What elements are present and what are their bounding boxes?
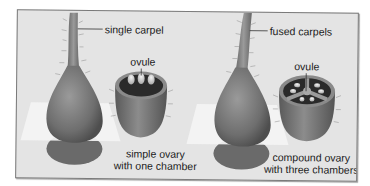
simple-ovary-caption-line1: simple ovary	[100, 147, 210, 160]
fused-carpels-label: fused carpels	[270, 25, 333, 38]
diagram-panel: single carpel ovule fused carpels ovule …	[15, 9, 359, 182]
right-ovule-label: ovule	[294, 60, 319, 72]
compound-ovary-caption: compound ovary with three chambers	[256, 151, 359, 176]
simple-ovary-caption: simple ovary with one chamber	[100, 147, 210, 172]
compound-ovary-caption-line2: with three chambers	[256, 163, 359, 176]
single-carpel-drawing	[20, 12, 122, 165]
simple-ovary-caption-line2: with one chamber	[100, 159, 210, 172]
left-ovule-label: ovule	[130, 55, 155, 67]
single-carpel-label: single carpel	[105, 23, 164, 36]
simple-ovary-cross-section	[109, 71, 174, 138]
